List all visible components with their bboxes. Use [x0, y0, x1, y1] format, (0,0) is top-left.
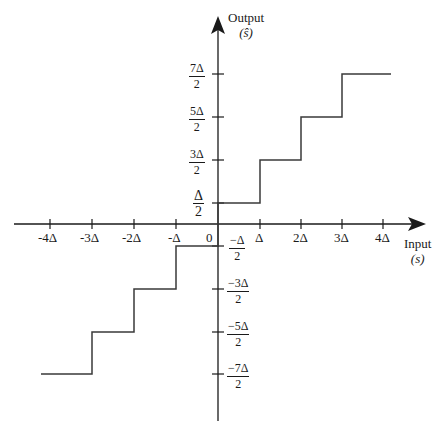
x-tick-label: -Δ — [168, 231, 181, 244]
y-tick-label: 3Δ 2 — [189, 148, 205, 177]
quantizer-diagram — [0, 0, 442, 435]
y-tick-denominator: 2 — [235, 377, 241, 391]
y-tick-label: −3Δ 2 — [227, 277, 249, 306]
y-tick-label: Δ 2 — [193, 189, 204, 218]
y-axis-title-text: Output — [228, 10, 264, 25]
x-tick-label: 4Δ — [375, 231, 390, 244]
y-tick-numerator: 7Δ — [189, 62, 205, 77]
y-tick-label: 7Δ 2 — [189, 62, 205, 91]
x-tick-label: -2Δ — [122, 231, 141, 244]
x-tick-label: Δ — [255, 231, 263, 244]
y-tick-numerator: 3Δ — [189, 148, 205, 163]
y-axis-title: Output (ŝ) — [228, 10, 264, 40]
x-tick-label: -4Δ — [38, 231, 57, 244]
y-axis-symbol: (ŝ) — [228, 25, 264, 40]
y-tick-denominator: 2 — [234, 249, 240, 263]
y-tick-numerator: −Δ — [229, 234, 245, 249]
y-tick-numerator: −3Δ — [227, 277, 249, 292]
y-tick-label: −5Δ 2 — [227, 320, 249, 349]
y-tick-label: −Δ 2 — [229, 234, 245, 263]
x-tick-label: 3Δ — [334, 231, 349, 244]
x-axis-title-text: Input — [404, 236, 431, 251]
x-axis-symbol: (s) — [404, 251, 431, 266]
y-tick-label: 5Δ 2 — [189, 105, 205, 134]
x-tick-label: -3Δ — [80, 231, 99, 244]
x-tick-label: 2Δ — [293, 231, 308, 244]
y-tick-denominator: 2 — [194, 120, 200, 134]
y-tick-numerator: Δ — [193, 189, 204, 204]
y-tick-denominator: 2 — [235, 292, 241, 306]
y-tick-numerator: −5Δ — [227, 320, 249, 335]
y-tick-denominator: 2 — [194, 163, 200, 177]
y-tick-numerator: −7Δ — [227, 362, 249, 377]
y-tick-denominator: 2 — [194, 77, 200, 91]
y-tick-numerator: 5Δ — [189, 105, 205, 120]
y-tick-denominator: 2 — [195, 204, 202, 218]
origin-label: 0 — [206, 231, 213, 244]
y-tick-label: −7Δ 2 — [227, 362, 249, 391]
x-axis-title: Input (s) — [404, 236, 431, 266]
y-tick-denominator: 2 — [235, 335, 241, 349]
